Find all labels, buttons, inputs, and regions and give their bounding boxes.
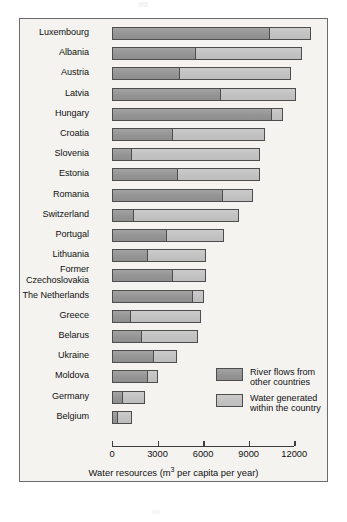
x-axis-title: Water resources (m3 per capita per year) <box>20 466 327 478</box>
bar-category-label: Lithuania <box>0 249 89 260</box>
bar-category-label: Portugal <box>0 229 89 240</box>
bar-row: Albania <box>20 47 327 60</box>
bar-track <box>112 229 224 242</box>
bar-segment-river-flows <box>112 47 196 60</box>
bar-row: Ukraine <box>20 350 327 363</box>
bar-row: Switzerland <box>20 209 327 222</box>
bar-segment-river-flows <box>112 67 180 80</box>
bar-category-label: Former Czechoslovakia <box>0 264 89 286</box>
x-axis-tick-label: 0 <box>109 449 114 459</box>
bar-segment-river-flows <box>112 370 148 383</box>
bar-segment-water-generated <box>147 249 206 262</box>
bar-track <box>112 27 311 40</box>
bar-segment-river-flows <box>112 88 221 101</box>
bar-track <box>112 189 253 202</box>
bar-track <box>112 148 260 161</box>
bar-category-label: The Netherlands <box>0 290 89 301</box>
bar-category-label: Belarus <box>0 330 89 341</box>
bar-track <box>112 269 206 282</box>
x-axis-tick <box>249 441 250 446</box>
x-axis: 030006000900012000 <box>112 446 294 447</box>
legend-swatch-light <box>216 394 243 407</box>
bar-row: Portugal <box>20 229 327 242</box>
bar-row: Former Czechoslovakia <box>20 269 327 282</box>
bar-row: Slovenia <box>20 148 327 161</box>
bar-track <box>112 108 283 121</box>
bar-track <box>112 391 145 404</box>
bar-segment-water-generated <box>117 411 132 424</box>
bar-segment-water-generated <box>271 108 283 121</box>
bar-segment-water-generated <box>131 148 260 161</box>
bar-track <box>112 330 198 343</box>
bar-row: Romania <box>20 189 327 202</box>
bar-track <box>112 209 239 222</box>
bar-segment-river-flows <box>112 290 193 303</box>
bar-track <box>112 350 177 363</box>
chart-figure-frame: LuxembourgAlbaniaAustriaLatviaHungaryCro… <box>19 18 328 482</box>
x-axis-title-before: Water resources (m <box>89 467 171 478</box>
legend-label: Water generated within the country <box>250 393 321 414</box>
bar-segment-river-flows <box>112 229 167 242</box>
bar-category-label: Greece <box>0 310 89 321</box>
bar-category-label: Slovenia <box>0 148 89 159</box>
bar-track <box>112 370 158 383</box>
bar-segment-water-generated <box>172 269 206 282</box>
bar-segment-river-flows <box>112 148 132 161</box>
x-axis-tick-label: 9000 <box>238 449 259 459</box>
bar-row: Belarus <box>20 330 327 343</box>
x-axis-line <box>112 446 294 447</box>
bar-category-label: Germany <box>0 391 89 402</box>
bar-track <box>112 290 204 303</box>
bar-row: Latvia <box>20 88 327 101</box>
scan-artifact-top <box>138 2 148 7</box>
bar-category-label: Romania <box>0 189 89 200</box>
bar-category-label: Luxembourg <box>0 27 89 38</box>
bar-row: Estonia <box>20 168 327 181</box>
x-axis-tick <box>112 441 113 446</box>
bar-row: Austria <box>20 67 327 80</box>
bar-segment-water-generated <box>269 27 311 40</box>
bar-segment-river-flows <box>112 310 131 323</box>
bar-track <box>112 67 291 80</box>
bar-category-label: Latvia <box>0 88 89 99</box>
bar-row: Hungary <box>20 108 327 121</box>
scan-artifact-bottom <box>152 510 160 514</box>
bar-segment-water-generated <box>195 47 302 60</box>
bar-segment-river-flows <box>112 330 142 343</box>
bar-category-label: Hungary <box>0 108 89 119</box>
bar-segment-water-generated <box>192 290 204 303</box>
legend-label: River flows from other countries <box>250 367 315 388</box>
bar-segment-water-generated <box>177 168 260 181</box>
bar-segment-water-generated <box>122 391 145 404</box>
bar-segment-water-generated <box>147 370 157 383</box>
bar-category-label: Switzerland <box>0 209 89 220</box>
bar-segment-water-generated <box>220 88 296 101</box>
bar-segment-water-generated <box>153 350 178 363</box>
bar-segment-river-flows <box>112 189 223 202</box>
bar-track <box>112 47 302 60</box>
x-axis-tick-label: 6000 <box>193 449 214 459</box>
legend-swatch-dark <box>216 368 243 381</box>
x-axis-tick-label: 12000 <box>281 449 307 459</box>
bar-row: Luxembourg <box>20 27 327 40</box>
bar-category-label: Croatia <box>0 128 89 139</box>
bar-category-label: Belgium <box>0 411 89 422</box>
bar-category-label: Austria <box>0 67 89 78</box>
bar-category-label: Estonia <box>0 168 89 179</box>
bar-segment-river-flows <box>112 168 178 181</box>
bar-segment-river-flows <box>112 27 270 40</box>
x-axis-title-after: per capita per year) <box>174 467 258 478</box>
bar-segment-water-generated <box>172 128 266 141</box>
bar-track <box>112 88 296 101</box>
x-axis-tick <box>203 441 204 446</box>
bar-row: The Netherlands <box>20 290 327 303</box>
bar-segment-river-flows <box>112 269 173 282</box>
chart-page: LuxembourgAlbaniaAustriaLatviaHungaryCro… <box>0 0 347 522</box>
chart-legend: River flows from other countriesWater ge… <box>216 367 331 418</box>
bar-segment-water-generated <box>179 67 291 80</box>
legend-item: River flows from other countries <box>216 367 331 388</box>
bar-row: Lithuania <box>20 249 327 262</box>
bar-category-label: Ukraine <box>0 350 89 361</box>
bar-segment-river-flows <box>112 128 173 141</box>
x-axis-tick-label: 3000 <box>147 449 168 459</box>
